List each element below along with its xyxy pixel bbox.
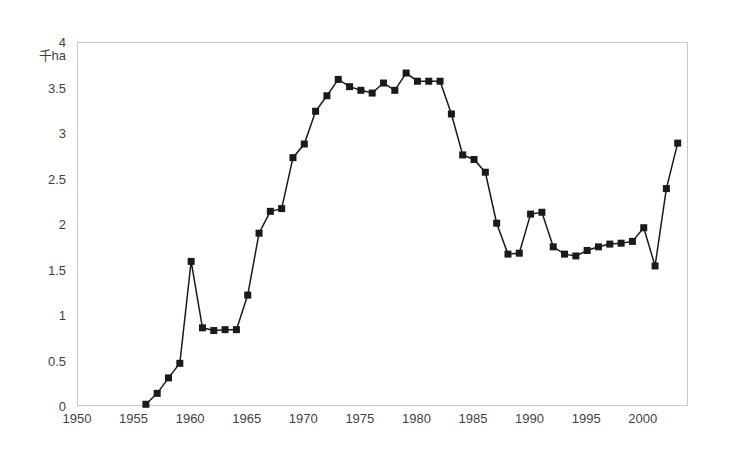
data-point-marker: [199, 324, 206, 331]
data-point-marker: [482, 169, 489, 176]
data-point-marker: [312, 108, 319, 115]
data-point-marker: [527, 211, 534, 218]
data-point-marker: [629, 238, 636, 245]
data-point-marker: [176, 360, 183, 367]
data-point-marker: [425, 78, 432, 85]
series-markers: [142, 70, 681, 408]
data-point-marker: [493, 220, 500, 227]
y-axis-tick-label: 4: [0, 36, 66, 49]
data-point-marker: [346, 83, 353, 90]
data-point-marker: [165, 374, 172, 381]
data-point-marker: [652, 262, 659, 269]
series-plot: [78, 43, 689, 407]
y-axis-tick-label: 0.5: [0, 354, 66, 367]
data-point-marker: [618, 240, 625, 247]
y-axis-tick-label: 2: [0, 218, 66, 231]
y-axis-tick-label: 3.5: [0, 81, 66, 94]
plot-area: [77, 42, 688, 406]
data-point-marker: [142, 401, 149, 408]
data-point-marker: [448, 110, 455, 117]
x-axis-tick-label: 1960: [160, 412, 220, 426]
x-axis-tick-label: 1990: [500, 412, 560, 426]
data-point-marker: [380, 80, 387, 87]
data-point-marker: [437, 78, 444, 85]
data-point-marker: [301, 141, 308, 148]
data-point-marker: [188, 258, 195, 265]
data-point-marker: [323, 92, 330, 99]
data-point-marker: [244, 292, 251, 299]
data-point-marker: [595, 243, 602, 250]
data-point-marker: [414, 78, 421, 85]
x-axis-tick-label: 1980: [386, 412, 446, 426]
data-point-marker: [210, 327, 217, 334]
data-point-marker: [674, 140, 681, 147]
chart-root: 00.511.522.533.54千ha 1950195519601965197…: [0, 0, 744, 465]
data-point-marker: [561, 251, 568, 258]
x-axis-tick-label: 1965: [217, 412, 277, 426]
data-point-marker: [403, 70, 410, 77]
data-point-marker: [538, 209, 545, 216]
data-point-marker: [369, 90, 376, 97]
series-line-area: [146, 73, 678, 404]
data-point-marker: [663, 185, 670, 192]
y-axis-tick-label: 2.5: [0, 172, 66, 185]
data-point-marker: [256, 230, 263, 237]
x-axis-tick-label: 1975: [330, 412, 390, 426]
x-axis-tick-label: 2000: [613, 412, 673, 426]
data-point-marker: [550, 243, 557, 250]
data-point-marker: [278, 205, 285, 212]
data-point-marker: [267, 208, 274, 215]
data-point-marker: [504, 251, 511, 258]
data-point-marker: [289, 154, 296, 161]
data-point-marker: [584, 247, 591, 254]
data-point-marker: [233, 326, 240, 333]
y-axis-tick-label: 3: [0, 127, 66, 140]
x-axis-tick-label: 1970: [273, 412, 333, 426]
y-axis-tick-label: 1.5: [0, 263, 66, 276]
x-axis-tick-label: 1950: [47, 412, 107, 426]
x-axis-tick-label: 1995: [556, 412, 616, 426]
data-point-marker: [391, 87, 398, 94]
y-axis-tick-label: 1: [0, 309, 66, 322]
data-point-marker: [154, 390, 161, 397]
data-point-marker: [357, 87, 364, 94]
x-axis-tick-label: 1955: [104, 412, 164, 426]
data-point-marker: [516, 250, 523, 257]
data-point-marker: [640, 224, 647, 231]
y-axis-unit-label: 千ha: [0, 49, 66, 63]
data-point-marker: [459, 151, 466, 158]
data-point-marker: [471, 156, 478, 163]
data-point-marker: [335, 76, 342, 83]
data-point-marker: [222, 326, 229, 333]
y-axis-tick-label: 0: [0, 400, 66, 413]
x-axis-tick-label: 1985: [443, 412, 503, 426]
data-point-marker: [572, 252, 579, 259]
data-point-marker: [606, 241, 613, 248]
